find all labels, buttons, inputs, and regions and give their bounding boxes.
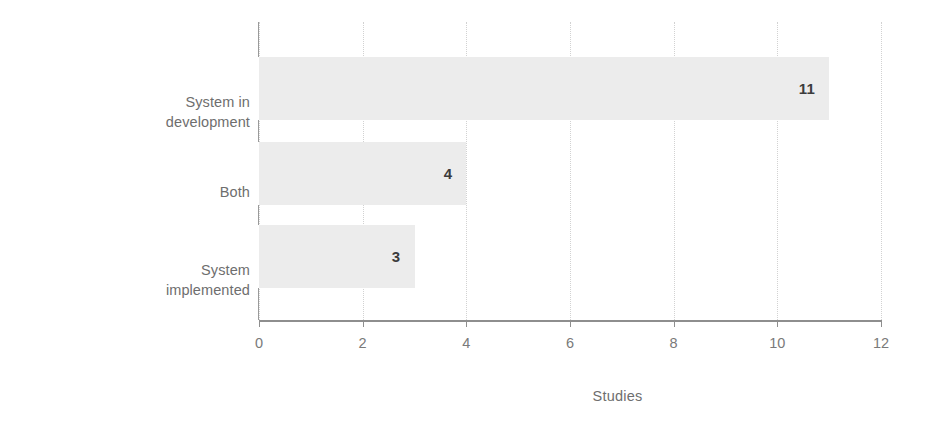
category-axis-labels: System in development Both System implem… [95, 40, 250, 322]
x-axis-tick-label: 10 [757, 335, 797, 351]
x-axis-tick [259, 320, 260, 327]
category-label-line: System [95, 260, 250, 280]
x-axis-tick-label: 4 [446, 335, 486, 351]
x-axis-tick-label: 6 [550, 335, 590, 351]
category-label-system-implemented: System implemented [95, 260, 250, 300]
x-axis-tick [777, 320, 778, 327]
plot-area: 1143 [259, 22, 881, 320]
x-axis-tick-label: 0 [239, 335, 279, 351]
x-axis-tick [674, 320, 675, 327]
bar: 3 [259, 225, 415, 288]
category-axis-tick [258, 22, 259, 57]
category-label-system-in-development: System in development [95, 92, 250, 132]
x-axis-tick [363, 320, 364, 327]
x-axis-tick-label: 2 [343, 335, 383, 351]
x-axis-tick-label: 8 [654, 335, 694, 351]
x-axis-title-text: Studies [593, 388, 643, 404]
bar-value-label: 11 [799, 80, 829, 97]
x-axis-tick [466, 320, 467, 327]
category-label-line: System in [95, 92, 250, 112]
category-axis-tick [258, 205, 259, 225]
bar: 4 [259, 142, 466, 205]
category-axis-tick [258, 288, 259, 320]
x-axis-tick [570, 320, 571, 327]
category-label-line: development [95, 112, 250, 132]
x-axis-tick-label: 12 [861, 335, 901, 351]
gridline [881, 22, 882, 320]
category-label-both: Both [95, 182, 250, 202]
category-label-line: Both [95, 182, 250, 202]
x-axis-tick [881, 320, 882, 327]
bar-chart: Evaluation type System in development Bo… [0, 0, 931, 447]
bar: 11 [259, 57, 829, 120]
category-axis-tick [258, 120, 259, 142]
x-axis-title: Studies [0, 388, 931, 404]
bar-value-label: 4 [444, 165, 467, 182]
category-label-line: implemented [95, 280, 250, 300]
bar-value-label: 3 [392, 248, 415, 265]
